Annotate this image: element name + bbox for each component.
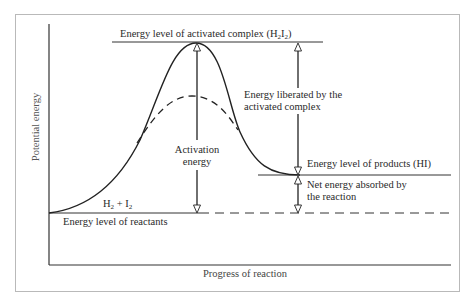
y-axis-label: Potential energy [30,93,41,161]
arrowhead-up-net [295,176,302,184]
arrowhead-down-net [295,205,302,213]
activation-energy-label-line1: Activation [175,144,219,156]
reactants-formula-label: H2 + I2 [103,198,132,210]
energy-diagram-graphic [0,0,474,306]
activation-energy-label-line2: energy [183,156,211,168]
liberated-energy-label-line2: activated complex [244,101,321,113]
arrowhead-down-liberated [295,167,302,175]
net-energy-label-line1: Net energy absorbed by [307,179,407,191]
uncatalyzed-curve [49,43,300,213]
reactants-level-label: Energy level of reactants [63,216,167,228]
x-axis-label: Progress of reaction [203,268,287,280]
activated-complex-label: Energy level of activated complex (H2I2) [120,28,292,40]
products-level-label: Energy level of products (HI) [307,158,431,170]
catalyzed-dashed-curve [137,96,238,143]
arrowhead-up-liberated [295,43,302,51]
liberated-energy-label-line1: Energy liberated by the [244,89,342,101]
arrowhead-down-activation [194,205,201,213]
net-energy-label-line2: the reaction [307,191,356,203]
arrowhead-up-activation [194,43,201,51]
